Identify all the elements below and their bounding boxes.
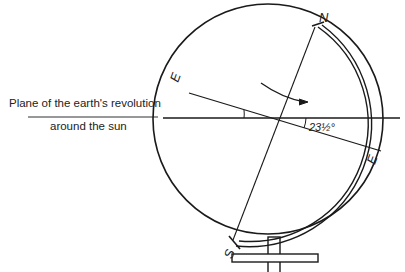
tilt-angle-label: 23½° <box>308 121 335 133</box>
rotation-arrowhead <box>299 99 308 105</box>
equator-line <box>189 93 381 151</box>
stand-base <box>232 254 318 262</box>
caption-line-2: around the sun <box>50 120 127 132</box>
globe-diagram: N S E E 23½° <box>0 0 405 272</box>
equator-label-left: E <box>167 71 184 85</box>
rotation-arrow <box>261 83 305 102</box>
north-label: N <box>319 10 329 25</box>
globe-circle <box>153 4 383 234</box>
meridian-ring-outer <box>239 27 368 242</box>
south-cap <box>229 236 240 249</box>
caption-line-1: Plane of the earth's revolution <box>9 97 161 109</box>
meridian-ring-inner <box>236 25 372 247</box>
angle-arc-right <box>304 118 306 128</box>
earth-axis <box>233 27 315 240</box>
south-label: S <box>221 247 238 261</box>
